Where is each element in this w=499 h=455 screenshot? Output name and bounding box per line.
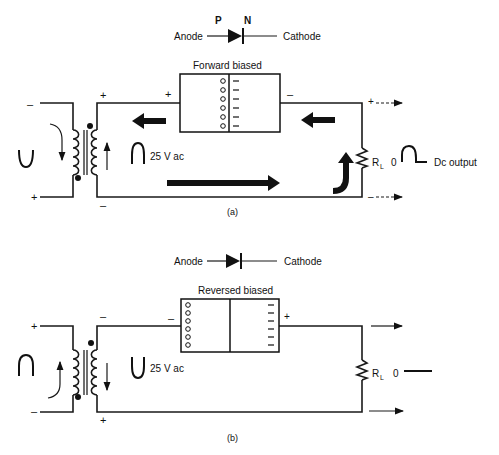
- caption-b: (b): [227, 433, 238, 443]
- cathode-label: Cathode: [284, 256, 322, 267]
- primary-current-arrow-icon: [50, 124, 62, 160]
- polarity-dot-icon: [75, 175, 81, 181]
- ac-wave-icon: [19, 150, 33, 167]
- zero-label: 0: [391, 157, 397, 168]
- secondary-coil: [91, 130, 97, 175]
- rl-label: R: [372, 157, 379, 168]
- primary-top-sign: –: [27, 98, 34, 110]
- current-arrow-left-icon: [301, 112, 335, 128]
- secondary-coil: [91, 350, 97, 395]
- panel-b: Anode Cathode + – – + 25 V ac – + Revers…: [19, 253, 432, 443]
- primary-bottom-sign: +: [31, 191, 37, 203]
- junction-right-sign: +: [284, 311, 290, 322]
- current-arrow-right-icon: [167, 175, 280, 191]
- current-arrow-left-icon: [132, 113, 166, 129]
- caption-a: (a): [227, 207, 238, 217]
- secondary-bottom-sign: –: [100, 199, 107, 211]
- panel-a: Anode Cathode P N – + + – 25 V ac: [19, 15, 477, 217]
- primary-coil: [73, 350, 79, 395]
- pn-junction-box: [180, 74, 280, 132]
- diode-triangle-icon: [228, 29, 242, 43]
- polarity-dot-icon: [88, 340, 94, 346]
- junction-title: Forward biased: [193, 60, 262, 71]
- polarity-dot-icon: [87, 123, 93, 129]
- secondary-top-sign: –: [100, 310, 107, 322]
- diode-symbol-a: Anode Cathode P N: [174, 15, 321, 44]
- n-label: N: [244, 15, 251, 26]
- primary-bottom-sign: –: [31, 405, 38, 417]
- load-resistor-icon: [357, 360, 367, 380]
- ac-wave-icon: [132, 357, 144, 378]
- rectifier-diagram: Anode Cathode P N – + + – 25 V ac: [0, 0, 499, 455]
- cathode-label: Cathode: [283, 31, 321, 42]
- primary-current-arrow-icon: [48, 362, 60, 398]
- anode-label: Anode: [174, 31, 203, 42]
- polarity-dot-icon: [75, 394, 81, 400]
- ac-wave-icon: [19, 355, 33, 376]
- rl-subscript: L: [380, 374, 384, 381]
- secondary-top-sign: +: [100, 89, 106, 101]
- rl-subscript: L: [380, 163, 384, 170]
- junction-left-sign: –: [168, 312, 175, 324]
- diode-symbol-b: Anode Cathode: [174, 253, 322, 269]
- diode-triangle-icon: [226, 254, 240, 268]
- anode-label: Anode: [174, 256, 203, 267]
- half-wave-output-icon: [402, 146, 427, 162]
- rl-label: R: [372, 368, 379, 379]
- voltage-label: 25 V ac: [150, 151, 184, 162]
- voltage-label: 25 V ac: [150, 363, 184, 374]
- junction-left-sign: +: [165, 88, 171, 100]
- secondary-bottom-sign: +: [100, 414, 106, 426]
- junction-right-sign: –: [287, 88, 294, 100]
- primary-coil: [73, 130, 79, 175]
- current-arrow-up-icon: [333, 152, 354, 194]
- dc-output-label: Dc output: [434, 157, 477, 168]
- primary-top-sign: +: [31, 320, 37, 332]
- p-label: P: [215, 15, 222, 26]
- ac-wave-icon: [132, 143, 144, 164]
- output-top-sign: +: [368, 96, 374, 107]
- junction-title: Reversed biased: [198, 285, 273, 296]
- zero-label: 0: [393, 368, 399, 379]
- output-bottom-sign: –: [368, 191, 374, 202]
- load-resistor-icon: [357, 148, 367, 168]
